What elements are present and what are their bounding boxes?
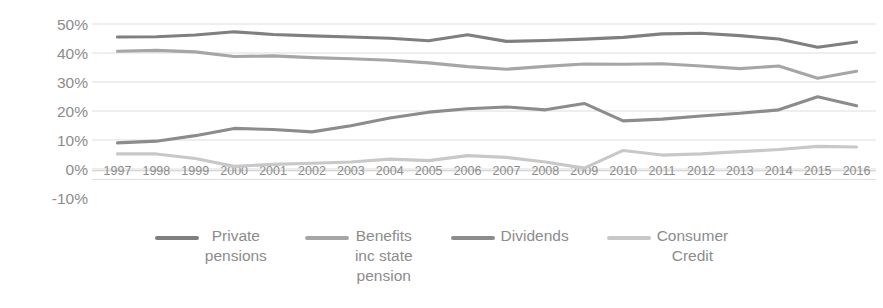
- gridlines: [92, 24, 876, 169]
- x-axis-tick-label: 2013: [726, 164, 754, 178]
- legend-item-private-pensions[interactable]: Private pensions: [155, 226, 267, 266]
- x-axis-tick-label: 2014: [765, 164, 793, 178]
- x-axis-tick-label: 1999: [181, 164, 209, 178]
- data-series-lines: [117, 32, 856, 168]
- series-line-dividends: [117, 97, 856, 143]
- legend-swatch-icon: [451, 236, 495, 240]
- x-axis-tick-label: 1998: [142, 164, 170, 178]
- y-axis-tick-label: 20%: [57, 103, 88, 120]
- x-axis-tick-label: 2004: [376, 164, 404, 178]
- line-chart: 50%40%30%20%10%0%-10% 199719981999200020…: [0, 0, 883, 308]
- x-axis-tick-label: 2011: [649, 164, 676, 178]
- x-axis-tick-labels: 1997199819992000200120022003200420052006…: [104, 164, 871, 178]
- legend-item-consumer-credit[interactable]: Consumer Credit: [607, 226, 729, 266]
- x-axis-tick-label: 2006: [454, 164, 482, 178]
- y-axis-tick-label: -10%: [52, 190, 88, 207]
- legend-item-label: Private pensions: [205, 226, 267, 266]
- x-axis-tick-label: 1997: [104, 164, 132, 178]
- x-axis-tick-label: 2016: [843, 164, 871, 178]
- chart-plot-area: 50%40%30%20%10%0%-10% 199719981999200020…: [0, 0, 883, 225]
- legend-item-label: Consumer Credit: [657, 226, 729, 266]
- chart-legend: Private pensionsBenefits inc state pensi…: [0, 226, 883, 308]
- legend-item-label: Dividends: [501, 226, 569, 246]
- x-axis-tick-label: 2001: [259, 164, 287, 178]
- legend-swatch-icon: [305, 236, 349, 240]
- x-axis-tick-label: 2005: [415, 164, 443, 178]
- legend-swatch-icon: [607, 236, 651, 240]
- x-axis-tick-label: 2008: [531, 164, 559, 178]
- series-line-benefits-inc-state-pension: [117, 50, 856, 78]
- x-axis-line: [92, 171, 876, 180]
- x-axis-tick-label: 2012: [687, 164, 715, 178]
- x-axis-tick-label: 2015: [804, 164, 832, 178]
- y-axis-tick-labels: 50%40%30%20%10%0%-10%: [52, 16, 88, 207]
- legend-item-benefits-inc-state-pension[interactable]: Benefits inc state pension: [305, 226, 413, 286]
- x-axis-tick-label: 2002: [298, 164, 326, 178]
- x-axis-tick-label: 2003: [337, 164, 365, 178]
- y-axis-tick-label: 50%: [57, 16, 88, 33]
- y-axis-tick-label: 10%: [57, 132, 88, 149]
- legend-item-dividends[interactable]: Dividends: [451, 226, 569, 246]
- y-axis-tick-label: 40%: [57, 45, 88, 62]
- series-line-private-pensions: [117, 32, 856, 47]
- y-axis-tick-label: 0%: [66, 161, 89, 178]
- legend-item-label: Benefits inc state pension: [355, 226, 413, 286]
- y-axis-tick-label: 30%: [57, 74, 88, 91]
- x-axis-tick-label: 2010: [609, 164, 637, 178]
- x-axis-tick-label: 2007: [493, 164, 521, 178]
- legend-swatch-icon: [155, 236, 199, 240]
